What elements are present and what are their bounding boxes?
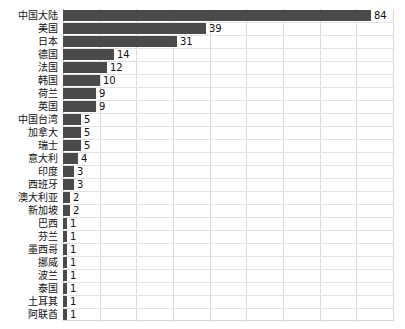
bar-and-value: 9 (63, 101, 105, 112)
value-label-3: 14 (114, 49, 130, 60)
value-label-0: 84 (371, 10, 387, 21)
value-label-14: 2 (70, 192, 79, 203)
bar-row: 意大利4 (0, 152, 405, 165)
value-label-22: 1 (67, 296, 76, 307)
category-label-0: 中国大陆 (0, 9, 58, 22)
value-label-23: 1 (67, 309, 76, 320)
category-label-8: 中国台湾 (0, 113, 58, 126)
bar-and-value: 2 (63, 205, 79, 216)
value-label-4: 12 (107, 62, 123, 73)
bar-and-value: 5 (63, 127, 90, 138)
category-label-13: 西班牙 (0, 178, 58, 191)
bar-row: 芬兰1 (0, 230, 405, 243)
category-label-10: 瑞士 (0, 139, 58, 152)
bar-row: 荷兰9 (0, 87, 405, 100)
category-label-5: 韩国 (0, 74, 58, 87)
bar-and-value: 2 (63, 192, 79, 203)
value-label-19: 1 (67, 257, 76, 268)
bar-row: 韩国10 (0, 74, 405, 87)
category-label-9: 加拿大 (0, 126, 58, 139)
bar-and-value: 1 (63, 296, 76, 307)
bar-and-value: 39 (63, 23, 222, 34)
bar-and-value: 31 (63, 36, 193, 47)
bar-row: 澳大利亚2 (0, 191, 405, 204)
bar-row: 日本31 (0, 35, 405, 48)
bar-and-value: 5 (63, 114, 90, 125)
bar-12 (63, 166, 74, 177)
bar-6 (63, 88, 96, 99)
value-label-21: 1 (67, 283, 76, 294)
category-label-1: 美国 (0, 22, 58, 35)
bar-row: 中国大陆84 (0, 9, 405, 22)
value-label-18: 1 (67, 244, 76, 255)
value-label-7: 9 (96, 101, 105, 112)
bar-0 (63, 10, 371, 21)
bar-5 (63, 75, 100, 86)
value-label-13: 3 (74, 179, 83, 190)
bar-1 (63, 23, 206, 34)
bar-2 (63, 36, 177, 47)
value-label-10: 5 (81, 140, 90, 151)
bar-row: 法国12 (0, 61, 405, 74)
bar-9 (63, 127, 81, 138)
category-label-23: 阿联酋 (0, 308, 58, 321)
bar-and-value: 12 (63, 62, 123, 73)
bar-14 (63, 192, 70, 203)
category-label-14: 澳大利亚 (0, 191, 58, 204)
bar-row: 西班牙3 (0, 178, 405, 191)
category-label-20: 波兰 (0, 269, 58, 282)
bar-and-value: 5 (63, 140, 90, 151)
bar-row: 新加坡2 (0, 204, 405, 217)
bar-row: 挪威1 (0, 256, 405, 269)
category-label-21: 泰国 (0, 282, 58, 295)
bar-and-value: 84 (63, 10, 387, 21)
bar-4 (63, 62, 107, 73)
bar-row: 阿联酋1 (0, 308, 405, 321)
bar-8 (63, 114, 81, 125)
value-label-12: 3 (74, 166, 83, 177)
bar-chart: 中国大陆84美国39日本31德国14法国12韩国10荷兰9英国9中国台湾5加拿大… (0, 0, 405, 329)
bar-row: 波兰1 (0, 269, 405, 282)
bar-row: 印度3 (0, 165, 405, 178)
value-label-1: 39 (206, 23, 222, 34)
category-label-12: 印度 (0, 165, 58, 178)
bar-row: 英国9 (0, 100, 405, 113)
category-label-15: 新加坡 (0, 204, 58, 217)
value-label-16: 1 (67, 218, 76, 229)
bar-row: 瑞士5 (0, 139, 405, 152)
bar-and-value: 1 (63, 231, 76, 242)
bar-row: 墨西哥1 (0, 243, 405, 256)
value-label-15: 2 (70, 205, 79, 216)
category-label-22: 土耳其 (0, 295, 58, 308)
bar-13 (63, 179, 74, 190)
bar-row: 美国39 (0, 22, 405, 35)
bar-10 (63, 140, 81, 151)
category-label-7: 英国 (0, 100, 58, 113)
bar-row: 加拿大5 (0, 126, 405, 139)
bar-row: 泰国1 (0, 282, 405, 295)
bar-and-value: 1 (63, 218, 76, 229)
category-label-17: 芬兰 (0, 230, 58, 243)
bar-and-value: 1 (63, 283, 76, 294)
category-label-16: 巴西 (0, 217, 58, 230)
value-label-2: 31 (177, 36, 193, 47)
value-label-20: 1 (67, 270, 76, 281)
bar-15 (63, 205, 70, 216)
category-label-4: 法国 (0, 61, 58, 74)
category-label-3: 德国 (0, 48, 58, 61)
bar-and-value: 4 (63, 153, 87, 164)
value-label-9: 5 (81, 127, 90, 138)
bar-rows: 中国大陆84美国39日本31德国14法国12韩国10荷兰9英国9中国台湾5加拿大… (0, 9, 405, 321)
bar-row: 中国台湾5 (0, 113, 405, 126)
bar-row: 巴西1 (0, 217, 405, 230)
category-label-19: 挪威 (0, 256, 58, 269)
value-label-5: 10 (100, 75, 116, 86)
bar-and-value: 1 (63, 244, 76, 255)
bar-row: 德国14 (0, 48, 405, 61)
bar-and-value: 3 (63, 179, 83, 190)
bar-and-value: 3 (63, 166, 83, 177)
category-label-2: 日本 (0, 35, 58, 48)
value-label-11: 4 (78, 153, 87, 164)
bar-and-value: 1 (63, 309, 76, 320)
bar-and-value: 1 (63, 270, 76, 281)
